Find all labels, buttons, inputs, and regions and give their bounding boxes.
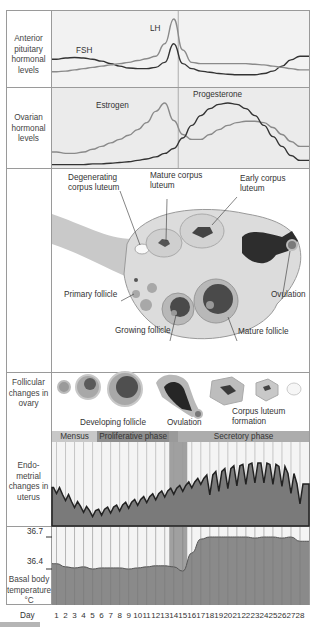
ovulation-label: Ovulation [271, 290, 306, 300]
follicular-ovulation-label: Ovulation [167, 418, 202, 428]
endometrial-chart [52, 442, 309, 526]
fsh-label: FSH [76, 46, 92, 56]
ovarian-label: Ovarian hormonal levels [6, 113, 51, 145]
primary-follicle-label: Primary follicle [64, 290, 117, 300]
tick-36-7: 36.7 [27, 527, 43, 537]
primary-follicle [132, 290, 140, 298]
follicle-stage-3-antrum [116, 376, 138, 398]
day-tick-label: 28 [295, 611, 305, 620]
degenerating-cl-label: Degenerating corpus luteum [68, 173, 138, 193]
phase-ovulation-gap [169, 431, 178, 442]
ovulated-oocyte [194, 410, 202, 418]
ligament [52, 214, 132, 279]
mature-follicle-antrum [203, 284, 233, 314]
early-cl-label: Early corpus luteum [240, 174, 300, 194]
follicle-stage-1 [58, 381, 70, 393]
growing-follicle-label: Growing follicle [115, 326, 171, 336]
phase-secretory-phase: Secretory phase [178, 431, 309, 442]
tick-36-4: 36.4 [27, 557, 43, 567]
follicle-stage-2-antrum [84, 378, 96, 390]
primary-follicle [140, 299, 152, 311]
mature-follicle-label: Mature follicle [238, 327, 289, 337]
pituitary-label: Anterior pituitary hormonal levels [6, 34, 51, 76]
estrogen-curve [52, 103, 309, 153]
primary-follicle [147, 283, 157, 293]
leader-line [120, 191, 140, 245]
mature-follicle-oocyte [206, 301, 214, 309]
corpus-albicans [287, 383, 301, 395]
phase-mensus: Mensus [52, 431, 97, 442]
endometrial-label: Endo- metrial changes in uterus [6, 461, 51, 503]
developing-follicle-label: Developing follicle [80, 418, 146, 428]
primary-follicle [134, 278, 138, 282]
day-label: Day [20, 611, 35, 621]
follicular-label: Follicular changes in ovary [6, 378, 51, 410]
phase-proliferative-phase: Proliferative phase [97, 431, 169, 442]
decorative-bar [0, 622, 40, 627]
corpus-luteum-formation-label: Corpus luteum formation [232, 407, 296, 427]
ovulated-oocyte [287, 240, 297, 250]
estrogen-label: Estrogen [96, 101, 129, 111]
mature-cl-label: Mature corpus luteum [150, 171, 210, 191]
ovary-illustration [52, 169, 309, 372]
lh-label: LH [150, 24, 160, 34]
ovarian-chart [52, 88, 309, 168]
basal-label: Basal body temperature °C [4, 575, 54, 607]
basal-temperature-chart [52, 527, 309, 605]
progesterone-label: Progesterone [193, 90, 242, 100]
